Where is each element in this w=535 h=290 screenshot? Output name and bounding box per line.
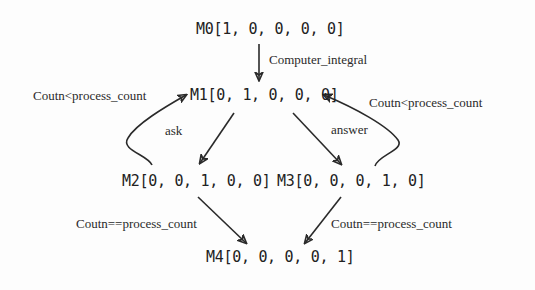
state-node-m4: M4[0, 0, 0, 0, 1] [206, 248, 354, 266]
state-node-m0: M0[1, 0, 0, 0, 0] [196, 20, 344, 38]
edge-m2-m4 [198, 197, 246, 243]
edge-m1-m3 [293, 113, 341, 164]
state-transition-diagram: M0[1, 0, 0, 0, 0] M1[0, 1, 0, 0, 0] M2[0… [0, 0, 535, 290]
edge-label-m3-loop: Coutn<process_count [369, 95, 482, 111]
state-node-m2: M2[0, 0, 1, 0, 0] [122, 172, 270, 190]
edge-label-m3-m4: Coutn==process_count [331, 216, 452, 232]
edge-label-ask: ask [165, 123, 182, 139]
edge-label-m2-m4: Coutn==process_count [76, 216, 197, 232]
edge-label-m2-loop: Coutn<process_count [33, 88, 146, 104]
edge-m1-m2 [200, 113, 234, 163]
state-node-m1: M1[0, 1, 0, 0, 0] [190, 86, 338, 104]
diagram-edges [0, 0, 535, 290]
edge-label-answer: answer [331, 122, 368, 138]
state-node-m3: M3[0, 0, 0, 1, 0] [277, 172, 425, 190]
edge-label-computer-integral: Computer_integral [269, 52, 367, 68]
